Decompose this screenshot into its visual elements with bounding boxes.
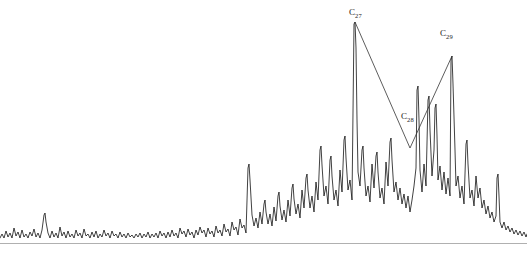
- peak-label-c27: C27: [349, 8, 362, 19]
- peak-label-c29-subscript: 29: [446, 33, 453, 40]
- peak-label-c28: C28: [401, 112, 414, 123]
- peak-label-c28-subscript: 28: [407, 116, 414, 123]
- peak-label-c29: C29: [440, 29, 453, 40]
- chromatogram-figure: C27 C28 C29: [0, 0, 527, 261]
- peak-label-c27-subscript: 27: [355, 12, 362, 19]
